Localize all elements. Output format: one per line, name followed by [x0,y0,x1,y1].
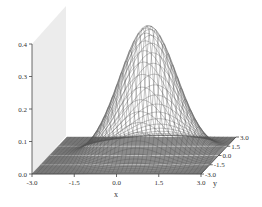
x-tick-label: -3.0 [26,179,38,187]
z-tick-label: 0.1 [18,138,27,146]
x-axis-title: x [114,190,118,199]
z-tick-label: 0.0 [18,171,27,179]
surface-plot: 0.00.10.20.30.4 -3.0-1.50.01.53.0 -3.0-1… [0,0,262,207]
y-tick-label: 1.5 [231,143,240,151]
x-tick-label: 0.0 [112,179,121,187]
y-axis-title: y [213,179,217,188]
y-tick-label: 0.0 [223,152,232,160]
z-axis-ticks: 0.00.10.20.30.4 [18,41,32,179]
z-tick-label: 0.2 [18,106,27,114]
z-tick-label: 0.4 [18,41,27,49]
x-tick-label: 3.0 [197,179,206,187]
x-axis-ticks: -3.0-1.50.01.53.0 [26,174,205,187]
y-tick-label: 3.0 [240,134,249,142]
z-tick-label: 0.3 [18,73,27,81]
x-tick-label: -1.5 [69,179,81,187]
y-tick-label: -1.5 [214,161,226,169]
x-tick-label: 1.5 [154,179,163,187]
y-tick-label: -3.0 [205,171,217,179]
